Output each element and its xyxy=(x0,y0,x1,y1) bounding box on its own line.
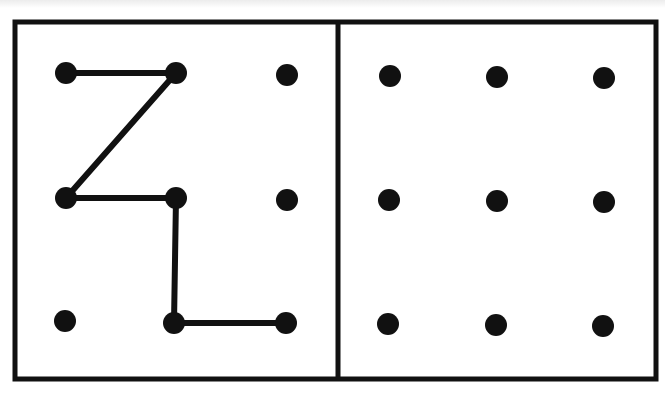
right-dot-grid xyxy=(377,65,615,337)
grid-dot xyxy=(165,187,187,209)
grid-dot xyxy=(486,66,508,88)
grid-dot xyxy=(593,191,615,213)
grid-dot xyxy=(486,190,508,212)
grid-dot xyxy=(163,312,185,334)
grid-dot xyxy=(592,315,614,337)
grid-dot xyxy=(55,187,77,209)
grid-dot xyxy=(378,189,400,211)
grid-dot xyxy=(593,67,615,89)
right-panel xyxy=(377,65,615,337)
grid-dot xyxy=(54,310,76,332)
grid-dot xyxy=(165,62,187,84)
grid-dot xyxy=(377,313,399,335)
left-panel xyxy=(54,62,298,334)
grid-dot xyxy=(379,65,401,87)
grid-dot xyxy=(276,189,298,211)
grid-dot xyxy=(276,64,298,86)
grid-dot xyxy=(485,314,507,336)
grid-dot xyxy=(55,62,77,84)
grid-dot xyxy=(275,312,297,334)
dot-grid-figure xyxy=(0,0,665,400)
